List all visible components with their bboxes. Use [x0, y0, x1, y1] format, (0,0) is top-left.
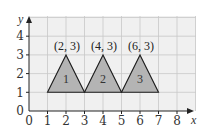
x-tick-8: 8 [173, 114, 181, 128]
x-tick-2: 2 [62, 114, 70, 128]
triangle-2-label: 2 [100, 72, 106, 86]
apex-label-1: (2, 3) [54, 39, 80, 53]
y-tick-0: 0 [16, 104, 24, 118]
triangle-3-label: 3 [137, 72, 143, 86]
x-tick-1: 1 [44, 114, 52, 128]
x-tick-0: 0 [25, 114, 33, 128]
x-axis-label: x [190, 113, 197, 127]
apex-label-3: (6, 3) [128, 39, 154, 53]
y-tick-3: 3 [16, 48, 24, 62]
y-tick-1: 1 [16, 86, 24, 100]
coordinate-diagram: 1 2 3 (2, 3) (4, 3) (6, 3) x y 0 1 2 3 4… [0, 0, 205, 135]
y-tick-4: 4 [16, 29, 24, 43]
x-tick-4: 4 [99, 114, 107, 128]
y-axis-label: y [17, 12, 24, 26]
x-tick-7: 7 [155, 114, 163, 128]
x-tick-5: 5 [118, 114, 126, 128]
x-tick-3: 3 [81, 114, 89, 128]
triangle-1-label: 1 [63, 72, 69, 86]
y-tick-2: 2 [16, 67, 24, 81]
x-tick-6: 6 [136, 114, 144, 128]
grid-background [29, 16, 196, 111]
apex-label-2: (4, 3) [91, 39, 117, 53]
